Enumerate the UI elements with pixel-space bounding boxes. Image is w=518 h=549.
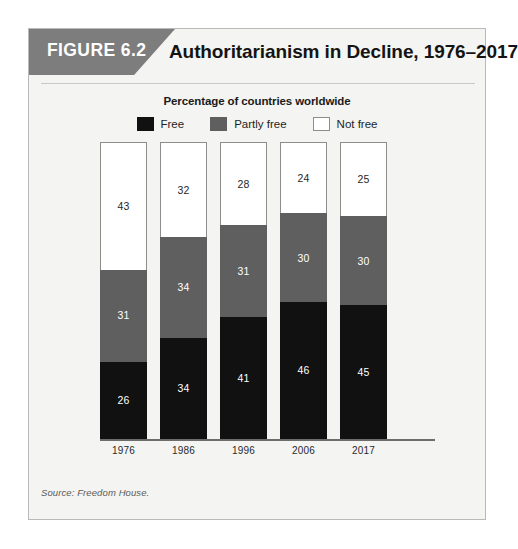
segment-free: 26: [100, 362, 147, 439]
legend-item-free: Free: [137, 117, 185, 131]
legend-swatch-not-free-icon: [313, 117, 330, 131]
x-axis-tick-label: 1976: [100, 445, 147, 456]
segment-free: 34: [160, 338, 207, 439]
segment-free: 45: [340, 305, 387, 439]
segment-value: 45: [357, 367, 369, 378]
segment-partly-free: 31: [100, 270, 147, 362]
legend-label-partly-free: Partly free: [234, 118, 286, 130]
x-axis-tick-label: 1996: [220, 445, 267, 456]
x-axis-tick-label: 2006: [280, 445, 327, 456]
segment-partly-free: 34: [160, 237, 207, 338]
bar-column-1986: 32 34 34: [160, 142, 207, 439]
segment-value: 34: [177, 383, 189, 394]
figure-panel: FIGURE 6.2 Authoritarianism in Decline, …: [28, 28, 486, 520]
segment-not-free: 43: [100, 142, 147, 270]
segment-value: 28: [237, 179, 249, 190]
segment-not-free: 28: [220, 142, 267, 225]
bar-column-2006: 24 30 46: [280, 142, 327, 439]
segment-value: 41: [237, 373, 249, 384]
bar-column-1996: 28 31 41: [220, 142, 267, 439]
legend-label-not-free: Not free: [337, 118, 378, 130]
x-axis-tick-label: 2017: [340, 445, 387, 456]
segment-value: 31: [237, 266, 249, 277]
legend-item-not-free: Not free: [313, 117, 378, 131]
legend-item-partly-free: Partly free: [210, 117, 286, 131]
stacked-bars: 43 31 26 32 34 34: [100, 142, 416, 439]
segment-value: 32: [177, 185, 189, 196]
x-axis-line: [100, 439, 435, 441]
bar-column-2017: 25 30 45: [340, 142, 387, 439]
figure-title: Authoritarianism in Decline, 1976–2017: [169, 41, 518, 63]
segment-value: 46: [297, 365, 309, 376]
segment-value: 30: [297, 253, 309, 264]
segment-value: 30: [357, 256, 369, 267]
segment-partly-free: 30: [280, 213, 327, 302]
legend-swatch-partly-free-icon: [210, 117, 227, 131]
legend-swatch-free-icon: [137, 117, 154, 131]
chart-subtitle: Percentage of countries worldwide: [29, 95, 485, 107]
segment-partly-free: 31: [220, 225, 267, 317]
figure-header: FIGURE 6.2 Authoritarianism in Decline, …: [29, 29, 485, 75]
x-axis-labels: 1976 1986 1996 2006 2017: [100, 445, 416, 456]
segment-value: 34: [177, 282, 189, 293]
segment-free: 41: [220, 317, 267, 439]
figure-number-label: FIGURE 6.2: [47, 40, 146, 61]
segment-free: 46: [280, 302, 327, 439]
chart-legend: Free Partly free Not free: [29, 117, 485, 131]
segment-value: 24: [297, 173, 309, 184]
segment-not-free: 25: [340, 142, 387, 216]
plot-area: 43 31 26 32 34 34: [29, 142, 487, 442]
segment-not-free: 32: [160, 142, 207, 237]
legend-label-free: Free: [161, 118, 185, 130]
segment-value: 31: [117, 310, 129, 321]
segment-not-free: 24: [280, 142, 327, 213]
segment-value: 43: [117, 201, 129, 212]
header-divider: [41, 83, 475, 84]
bar-column-1976: 43 31 26: [100, 142, 147, 439]
source-note: Source: Freedom House.: [41, 487, 149, 498]
segment-value: 25: [357, 174, 369, 185]
x-axis-tick-label: 1986: [160, 445, 207, 456]
segment-value: 26: [117, 395, 129, 406]
segment-partly-free: 30: [340, 216, 387, 305]
